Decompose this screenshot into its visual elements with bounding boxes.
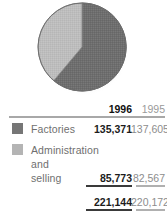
- administration-value-1996: 85,773: [59, 171, 132, 185]
- factories-value-1996: 135,371: [59, 122, 132, 136]
- header-divider: [9, 116, 165, 118]
- subtotal-underline-1995: [136, 185, 165, 187]
- total-underline-1996: [86, 209, 132, 211]
- pie-chart-area: [0, 0, 167, 100]
- table-row-administration-line3: selling 85,773 82,567: [0, 171, 167, 185]
- administration-value-1995: 82,567: [131, 171, 165, 185]
- row-label-administration: Administration: [31, 143, 99, 157]
- row-label-administration-selling: selling: [31, 171, 61, 185]
- table-row-administration-line2: and: [0, 157, 167, 171]
- total-value-1995: 220,172: [131, 195, 165, 209]
- table-row-total: 221,144 220,172: [0, 195, 167, 209]
- total-underline-1995: [136, 209, 165, 211]
- table-row-administration: Administration: [0, 143, 167, 157]
- row-label-administration-and: and: [31, 157, 49, 171]
- expenses-pie-chart: [37, 1, 129, 97]
- table-row-factories: Factories 135,371 137,605: [0, 122, 167, 136]
- subtotal-underline-1996: [86, 185, 132, 187]
- table-header-row: 1996 1995: [0, 102, 167, 116]
- legend-swatch-administration: [11, 143, 24, 156]
- column-header-1995: 1995: [131, 102, 165, 116]
- column-header-1996: 1996: [59, 102, 132, 116]
- factories-value-1995: 137,605: [131, 122, 165, 136]
- legend-swatch-factories: [11, 122, 24, 135]
- total-value-1996: 221,144: [59, 195, 132, 209]
